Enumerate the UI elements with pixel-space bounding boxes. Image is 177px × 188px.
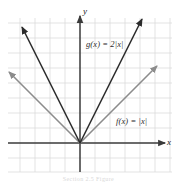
function-f-label: f(x) = |x| xyxy=(116,117,147,126)
absolute-value-graph-figure: y x g(x) = 2|x| f(x) = |x| Section 2.5 F… xyxy=(0,0,177,188)
figure-caption: Section 2.5 Figure xyxy=(0,176,177,182)
y-axis-label: y xyxy=(83,7,87,16)
coordinate-plane xyxy=(0,0,177,188)
x-axis-label: x xyxy=(167,138,171,147)
function-g-label: g(x) = 2|x| xyxy=(86,40,123,49)
